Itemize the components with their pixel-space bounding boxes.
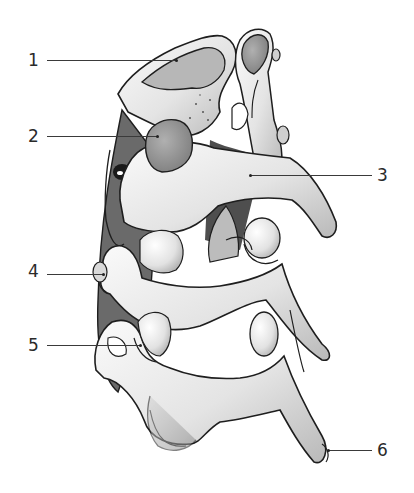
label-5: 5 bbox=[28, 337, 39, 354]
leader-line-1 bbox=[47, 60, 176, 61]
label-3: 3 bbox=[377, 167, 388, 184]
label-1: 1 bbox=[28, 52, 39, 69]
leader-line-6 bbox=[328, 450, 372, 451]
leader-line-2 bbox=[47, 136, 157, 137]
label-4: 4 bbox=[28, 263, 39, 280]
leader-line-4 bbox=[47, 274, 103, 275]
leader-dot-2 bbox=[156, 135, 159, 138]
cervical-vertebrae-illustration bbox=[0, 0, 414, 493]
label-2: 2 bbox=[28, 128, 39, 145]
leader-line-5 bbox=[47, 345, 140, 346]
leader-dot-5 bbox=[139, 344, 142, 347]
leader-dot-1 bbox=[175, 59, 178, 62]
leader-dot-3 bbox=[249, 174, 252, 177]
leader-line-3 bbox=[250, 175, 372, 176]
label-6: 6 bbox=[377, 442, 388, 459]
leader-dot-6 bbox=[327, 449, 330, 452]
leader-dot-4 bbox=[102, 273, 105, 276]
